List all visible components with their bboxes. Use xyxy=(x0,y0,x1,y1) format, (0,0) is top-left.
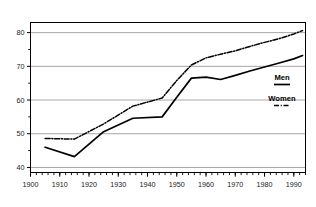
plot-frame xyxy=(31,23,306,173)
series-line-men xyxy=(45,56,302,157)
x-tick-label-1960: 1960 xyxy=(198,180,214,189)
x-tick-label-1980: 1980 xyxy=(257,180,273,189)
axes-group xyxy=(31,23,306,173)
y-tick-label-80: 80 xyxy=(17,28,25,37)
legend: MenWomen xyxy=(268,73,296,106)
x-tick-label-1930: 1930 xyxy=(110,180,126,189)
line-chart: 4050607080190019101920193019401950196019… xyxy=(0,0,316,207)
x-tick-label-1990: 1990 xyxy=(286,180,302,189)
x-tick-label-1900: 1900 xyxy=(23,180,39,189)
tick-labels-group: 4050607080190019101920193019401950196019… xyxy=(17,28,302,188)
x-tick-label-1950: 1950 xyxy=(169,180,185,189)
y-tick-label-40: 40 xyxy=(17,163,25,172)
gridlines-group xyxy=(31,33,306,168)
legend-label-men: Men xyxy=(274,73,290,82)
x-tick-label-1910: 1910 xyxy=(52,180,68,189)
x-tick-label-1940: 1940 xyxy=(140,180,156,189)
data-series-group xyxy=(45,31,302,157)
y-tick-label-50: 50 xyxy=(17,129,25,138)
series-line-women xyxy=(45,31,302,140)
x-tick-label-1920: 1920 xyxy=(81,180,97,189)
x-tick-label-1970: 1970 xyxy=(227,180,243,189)
y-tick-label-70: 70 xyxy=(17,62,25,71)
y-tick-label-60: 60 xyxy=(17,96,25,105)
legend-label-women: Women xyxy=(268,94,296,103)
chart-container: 4050607080190019101920193019401950196019… xyxy=(0,0,316,207)
